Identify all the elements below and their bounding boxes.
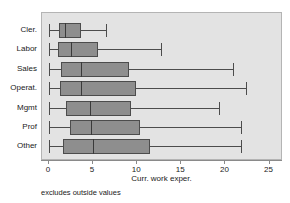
whisker-cap-lower: [49, 140, 50, 153]
x-tick: [180, 160, 181, 164]
whisker-cap-upper: [246, 82, 247, 95]
median-line: [65, 23, 66, 38]
whisker-cap-upper: [233, 63, 234, 76]
box-iqr: [63, 139, 149, 154]
box-plot-row: [42, 60, 281, 80]
box-plot-row: [42, 99, 281, 119]
box-plot-chart: Cler.LaborSalesOperat.MgmtProfOther 0510…: [0, 0, 290, 203]
whisker-upper: [81, 30, 107, 31]
x-axis-title: Curr. work exper.: [41, 174, 282, 183]
category-label-other: Other: [0, 141, 37, 151]
chart-footnote: excludes outside values: [41, 188, 121, 197]
whisker-lower: [49, 108, 66, 109]
whisker-cap-upper: [241, 140, 242, 153]
box-plot-row: [42, 118, 281, 138]
plot-area: [41, 12, 282, 160]
x-tick: [224, 160, 225, 164]
category-label-cler: Cler.: [0, 25, 37, 35]
median-line: [93, 139, 94, 154]
box-plot-row: [42, 40, 281, 60]
box-iqr: [61, 62, 129, 77]
whisker-lower: [49, 146, 63, 147]
whisker-cap-lower: [49, 24, 50, 37]
whisker-cap-lower: [49, 121, 50, 134]
whisker-lower: [49, 88, 60, 89]
whisker-cap-lower: [49, 43, 50, 56]
x-tick: [136, 160, 137, 164]
x-tick-label: 25: [257, 165, 281, 174]
x-tick-label: 10: [124, 165, 148, 174]
whisker-lower: [49, 127, 70, 128]
box-iqr: [66, 101, 131, 116]
box-iqr: [60, 81, 137, 96]
category-label-sales: Sales: [0, 64, 37, 74]
box-plot-row: [42, 137, 281, 157]
x-tick-label: 15: [168, 165, 192, 174]
median-line: [90, 101, 91, 116]
whisker-upper: [98, 49, 161, 50]
median-line: [91, 120, 92, 135]
whisker-lower: [49, 30, 59, 31]
whisker-cap-lower: [49, 82, 50, 95]
median-line: [81, 81, 82, 96]
whisker-cap-lower: [49, 102, 50, 115]
x-tick: [92, 160, 93, 164]
box-iqr: [59, 23, 81, 38]
box-iqr: [70, 120, 140, 135]
box-plot-row: [42, 21, 281, 41]
x-tick-label: 5: [80, 165, 104, 174]
whisker-upper: [136, 88, 245, 89]
median-line: [71, 42, 72, 57]
box-plot-row: [42, 79, 281, 99]
x-axis: [41, 160, 282, 161]
category-label-mgmt: Mgmt: [0, 103, 37, 113]
category-label-prof: Prof: [0, 122, 37, 132]
whisker-lower: [49, 69, 61, 70]
whisker-lower: [49, 49, 58, 50]
whisker-upper: [131, 108, 219, 109]
x-tick: [269, 160, 270, 164]
plot-inner: [42, 13, 281, 159]
whisker-cap-upper: [241, 121, 242, 134]
category-label-operat: Operat.: [0, 83, 37, 93]
median-line: [81, 62, 82, 77]
whisker-upper: [129, 69, 233, 70]
x-tick-label: 20: [212, 165, 236, 174]
whisker-upper: [140, 127, 241, 128]
category-label-labor: Labor: [0, 44, 37, 54]
whisker-cap-upper: [161, 43, 162, 56]
whisker-upper: [150, 146, 242, 147]
box-iqr: [58, 42, 99, 57]
whisker-cap-lower: [49, 63, 50, 76]
whisker-cap-upper: [219, 102, 220, 115]
x-tick-label: 0: [36, 165, 60, 174]
x-tick: [48, 160, 49, 164]
whisker-cap-upper: [106, 24, 107, 37]
